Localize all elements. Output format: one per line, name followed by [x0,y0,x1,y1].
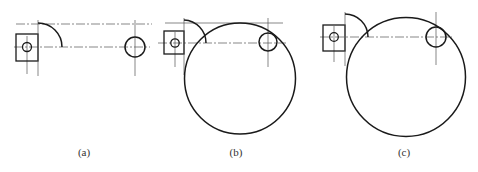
panel-c: (c) [320,12,466,159]
large-circle-b [185,23,296,134]
quarter-arc-b [184,20,206,43]
quarter-arc-a [38,23,62,47]
large-circle-c [347,18,466,137]
panel-b: (b) [158,18,296,159]
panel-label-b: (b) [230,146,243,159]
square-block-b [164,31,184,54]
panel-label-a: (a) [78,146,91,159]
panel-a: (a) [14,20,152,159]
panel-label-c: (c) [398,146,411,159]
construction-diagram: (a) (b) (c) [0,0,478,172]
